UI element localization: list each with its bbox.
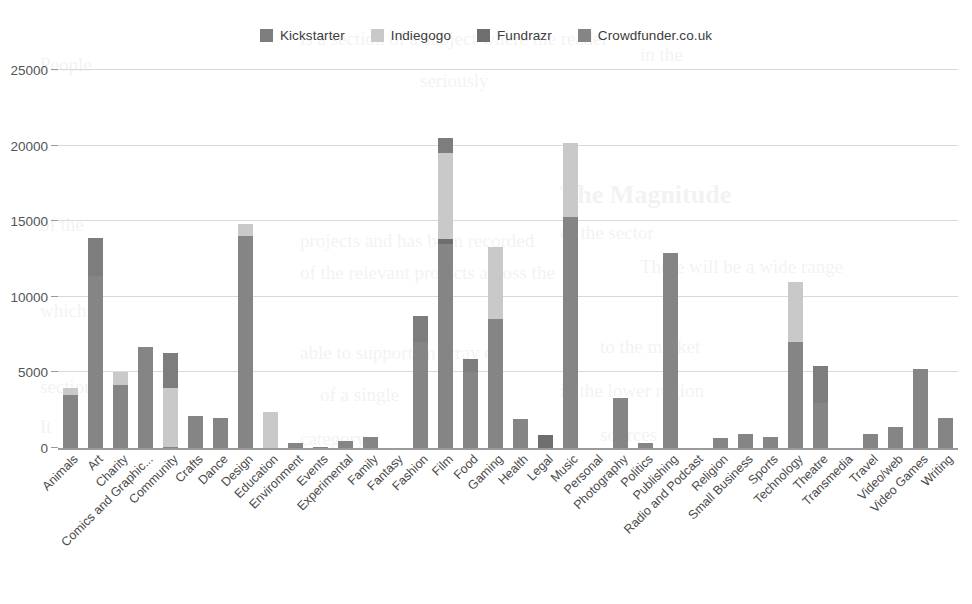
bar-segment[interactable] bbox=[163, 388, 179, 447]
bar-segment[interactable] bbox=[638, 443, 654, 448]
bar-segment[interactable] bbox=[238, 224, 254, 236]
bar-stack[interactable] bbox=[938, 418, 954, 448]
bar-slot[interactable] bbox=[733, 70, 758, 448]
bar-segment[interactable] bbox=[413, 316, 429, 342]
bar-stack[interactable] bbox=[738, 434, 754, 448]
bar-segment[interactable] bbox=[563, 143, 579, 217]
bar-slot[interactable] bbox=[833, 70, 858, 448]
bar-stack[interactable] bbox=[663, 253, 679, 448]
bar-slot[interactable] bbox=[208, 70, 233, 448]
bar-stack[interactable] bbox=[613, 398, 629, 448]
bar-segment[interactable] bbox=[913, 369, 929, 448]
bar-slot[interactable] bbox=[558, 70, 583, 448]
bar-segment[interactable] bbox=[813, 403, 829, 448]
bar-slot[interactable] bbox=[533, 70, 558, 448]
bar-slot[interactable] bbox=[808, 70, 833, 448]
bar-segment[interactable] bbox=[63, 395, 79, 448]
bar-slot[interactable] bbox=[908, 70, 933, 448]
bar-segment[interactable] bbox=[313, 447, 329, 449]
bar-slot[interactable] bbox=[83, 70, 108, 448]
bar-segment[interactable] bbox=[413, 342, 429, 448]
bar-slot[interactable] bbox=[708, 70, 733, 448]
bar-slot[interactable] bbox=[233, 70, 258, 448]
bar-segment[interactable] bbox=[438, 244, 454, 448]
bar-slot[interactable] bbox=[133, 70, 158, 448]
bar-slot[interactable] bbox=[783, 70, 808, 448]
bar-slot[interactable] bbox=[858, 70, 883, 448]
bar-stack[interactable] bbox=[913, 369, 929, 448]
bar-stack[interactable] bbox=[163, 353, 179, 448]
bar-stack[interactable] bbox=[338, 441, 354, 448]
bar-slot[interactable] bbox=[483, 70, 508, 448]
bar-segment[interactable] bbox=[463, 359, 479, 373]
bar-stack[interactable] bbox=[563, 143, 579, 448]
bar-segment[interactable] bbox=[788, 282, 804, 342]
bar-slot[interactable] bbox=[333, 70, 358, 448]
bar-segment[interactable] bbox=[488, 247, 504, 320]
bar-stack[interactable] bbox=[438, 138, 454, 448]
bar-segment[interactable] bbox=[63, 388, 79, 396]
bar-stack[interactable] bbox=[363, 437, 379, 448]
bar-stack[interactable] bbox=[538, 435, 554, 448]
bar-segment[interactable] bbox=[188, 416, 204, 449]
bar-segment[interactable] bbox=[213, 418, 229, 448]
bar-slot[interactable] bbox=[158, 70, 183, 448]
bar-stack[interactable] bbox=[813, 366, 829, 448]
bar-segment[interactable] bbox=[463, 372, 479, 448]
bar-slot[interactable] bbox=[458, 70, 483, 448]
bar-stack[interactable] bbox=[188, 416, 204, 449]
bar-segment[interactable] bbox=[138, 347, 154, 448]
bar-stack[interactable] bbox=[263, 412, 279, 448]
bar-segment[interactable] bbox=[263, 412, 279, 448]
bar-slot[interactable] bbox=[583, 70, 608, 448]
bar-slot[interactable] bbox=[933, 70, 958, 448]
legend-item-fundrazr[interactable]: Fundrazr bbox=[477, 28, 552, 43]
bar-stack[interactable] bbox=[238, 224, 254, 448]
bar-stack[interactable] bbox=[138, 347, 154, 448]
bar-segment[interactable] bbox=[813, 366, 829, 402]
bar-segment[interactable] bbox=[88, 238, 104, 276]
bar-slot[interactable] bbox=[308, 70, 333, 448]
bar-stack[interactable] bbox=[713, 438, 729, 448]
bar-segment[interactable] bbox=[538, 435, 554, 448]
bar-slot[interactable] bbox=[283, 70, 308, 448]
bar-slot[interactable] bbox=[358, 70, 383, 448]
bar-segment[interactable] bbox=[738, 434, 754, 448]
bar-slot[interactable] bbox=[383, 70, 408, 448]
bar-stack[interactable] bbox=[513, 419, 529, 448]
bar-segment[interactable] bbox=[788, 342, 804, 448]
bar-stack[interactable] bbox=[463, 359, 479, 448]
bar-stack[interactable] bbox=[88, 238, 104, 448]
bar-segment[interactable] bbox=[763, 437, 779, 448]
bar-slot[interactable] bbox=[633, 70, 658, 448]
bar-slot[interactable] bbox=[683, 70, 708, 448]
bar-stack[interactable] bbox=[788, 282, 804, 448]
bar-segment[interactable] bbox=[288, 443, 304, 448]
bar-stack[interactable] bbox=[888, 427, 904, 448]
bar-slot[interactable] bbox=[758, 70, 783, 448]
legend-item-kickstarter[interactable]: Kickstarter bbox=[260, 28, 345, 43]
bar-stack[interactable] bbox=[763, 437, 779, 448]
bar-segment[interactable] bbox=[238, 236, 254, 448]
bar-stack[interactable] bbox=[488, 247, 504, 448]
bar-stack[interactable] bbox=[863, 434, 879, 448]
bar-stack[interactable] bbox=[113, 372, 129, 448]
bar-slot[interactable] bbox=[58, 70, 83, 448]
bar-slot[interactable] bbox=[108, 70, 133, 448]
bar-segment[interactable] bbox=[938, 418, 954, 448]
bar-segment[interactable] bbox=[563, 217, 579, 448]
bar-stack[interactable] bbox=[63, 388, 79, 448]
bar-segment[interactable] bbox=[88, 276, 104, 448]
legend-item-indiegogo[interactable]: Indiegogo bbox=[371, 28, 451, 43]
bar-stack[interactable] bbox=[213, 418, 229, 448]
bar-stack[interactable] bbox=[313, 447, 329, 449]
bar-segment[interactable] bbox=[163, 447, 179, 449]
bar-stack[interactable] bbox=[638, 443, 654, 448]
bar-segment[interactable] bbox=[438, 138, 454, 153]
bar-segment[interactable] bbox=[863, 434, 879, 448]
bar-segment[interactable] bbox=[663, 253, 679, 448]
bar-segment[interactable] bbox=[363, 437, 379, 448]
bar-segment[interactable] bbox=[438, 153, 454, 239]
bar-slot[interactable] bbox=[508, 70, 533, 448]
bar-segment[interactable] bbox=[113, 372, 129, 384]
